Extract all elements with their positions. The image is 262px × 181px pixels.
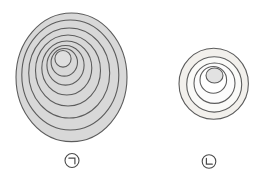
diagram-page xyxy=(0,0,262,181)
tree-rings-diagram xyxy=(0,0,262,181)
growth-ring xyxy=(206,68,223,83)
label-b-circle xyxy=(202,155,216,169)
label-b xyxy=(202,155,216,169)
growth-ring xyxy=(55,51,71,68)
label-a xyxy=(65,154,79,168)
tree-rings-figure-a xyxy=(16,13,127,142)
label-a-circle xyxy=(65,154,79,168)
tree-rings-figure-b xyxy=(179,48,248,119)
